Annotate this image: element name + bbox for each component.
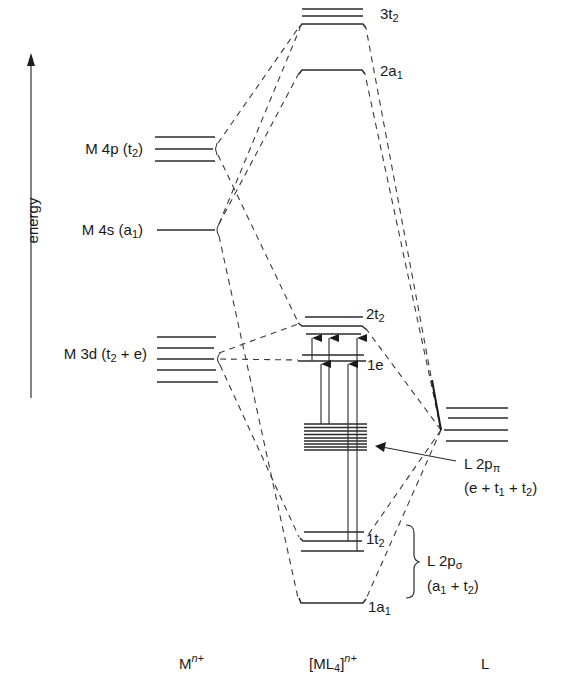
metal-4p-label: M 4p (t2) [85,140,143,158]
ligand-levels [444,408,508,441]
complex-1t2-levels [300,532,364,551]
mo-1a1-label: 1a1 [368,598,391,616]
mo-3t2-label: 3t2 [380,5,399,23]
ligand-sigma-label: L 2pσ [427,552,462,570]
ligand-converge-solid [432,380,441,430]
ligand-pi-symmetry: (e + t1 + t2) [464,479,537,497]
ligand-pi-label: L 2pπ [464,455,500,473]
metal-4p-levels [155,137,217,161]
column-label-complex: [ML4]n+ [309,655,357,673]
metal-3d-label: M 3d (t2 + e) [64,345,147,363]
metal-3d-levels [157,337,220,382]
column-label-ligand: L [481,655,489,673]
mo-diagram-canvas [0,0,567,686]
metal-4s-label: M 4s (a1) [82,221,143,239]
ligand-sigma-symmetry: (a1 + t2) [427,577,479,595]
complex-1e-levels [298,355,366,361]
mo-2a1-label: 2a1 [380,62,403,80]
energy-axis-label: energy [24,191,41,251]
mo-2t2-label: 2t2 [366,305,385,323]
complex-2t2-levels [298,317,367,334]
mo-1t2-label: 1t2 [366,530,385,548]
pi-pointer-arrow [375,442,456,461]
correlation-lines [218,27,441,599]
sigma-brace [406,525,419,598]
complex-2a1-level [299,70,365,74]
complex-1a1-level [299,598,366,603]
metal-4s-level [157,224,219,236]
complex-3t2-levels [299,9,366,28]
mo-1e-label: 1e [367,356,384,374]
column-label-metal: Mn+ [179,655,204,673]
